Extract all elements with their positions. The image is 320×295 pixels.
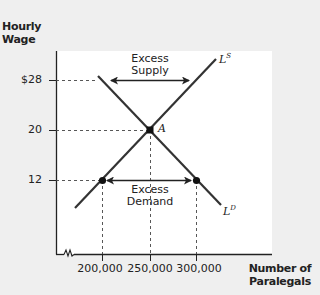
y-tick-12: 12 [8,173,42,186]
x-axis-title-line1: Number of [240,262,320,275]
y-tick-20: 20 [8,123,42,136]
excess-supply-label: Excess Supply [120,53,180,77]
demand-curve-label: LD [223,204,236,218]
y-axis-title: Hourly Wage [2,20,54,46]
equilibrium-point [147,127,154,134]
y-tick-28: $28 [8,73,42,86]
supply-curve-label: LS [219,52,231,66]
axis-break-icon [64,250,74,256]
excess-supply-line2: Supply [120,65,180,77]
y-axis-title-line1: Hourly [2,20,54,33]
x-axis-title-line2: Paralegals [240,275,320,288]
quantity-demanded-point [193,177,200,184]
excess-demand-label: Excess Demand [120,184,180,208]
x-tick-300000: 300,000 [169,262,229,275]
excess-demand-line2: Demand [120,196,180,208]
y-axis-title-line2: Wage [2,33,54,46]
x-axis-title: Number of Paralegals [240,262,320,288]
quantity-supplied-point [99,177,106,184]
point-a-label: A [158,122,166,135]
